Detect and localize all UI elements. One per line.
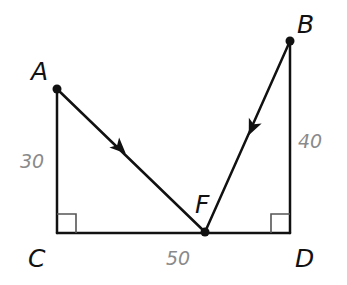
segment-bf: [205, 41, 290, 232]
arrow-icon-bf: [242, 118, 261, 138]
geometry-diagram: A B C D F 30 40 50: [0, 0, 347, 285]
right-angle-mark-c: [57, 214, 76, 233]
point-f-dot: [201, 228, 210, 237]
label-c: C: [28, 244, 46, 273]
length-label-cd: 50: [166, 247, 190, 269]
label-a: A: [29, 57, 48, 86]
length-label-bd: 40: [298, 130, 322, 152]
right-angle-mark-d: [271, 214, 290, 233]
label-b: B: [297, 10, 314, 39]
label-f: F: [195, 190, 210, 219]
point-a-dot: [53, 85, 62, 94]
label-d: D: [295, 244, 314, 273]
segment-af: [57, 89, 205, 232]
length-label-ac: 30: [20, 150, 44, 172]
point-b-dot: [286, 37, 295, 46]
